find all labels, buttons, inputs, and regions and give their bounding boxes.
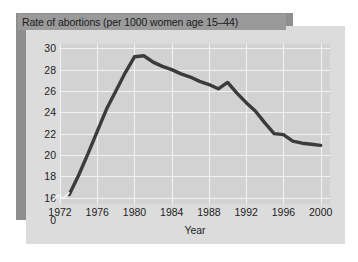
y-axis-tick-label: 18 bbox=[44, 170, 56, 182]
x-axis-tick-label: 1984 bbox=[160, 206, 183, 218]
y-axis-tick-label: 30 bbox=[44, 42, 56, 54]
x-axis-tick-label: 1980 bbox=[123, 206, 146, 218]
x-axis-label: Year bbox=[60, 224, 330, 236]
x-axis-tick-label: 2000 bbox=[309, 206, 332, 218]
series-line-abortion-rate bbox=[60, 44, 330, 204]
y-axis-tick-label: 20 bbox=[44, 149, 56, 161]
x-axis-tick-label: 1996 bbox=[272, 206, 295, 218]
x-axis-tick-label: 1972 bbox=[48, 206, 71, 218]
y-axis-tick-label: 26 bbox=[44, 85, 56, 97]
y-axis-ticks: 16182022242628300 bbox=[26, 26, 60, 218]
plot-area bbox=[60, 44, 330, 204]
chart-figure: Rate of abortions (per 1000 women age 15… bbox=[0, 0, 358, 262]
x-axis-tick-label: 1976 bbox=[86, 206, 109, 218]
axis-break-icon bbox=[52, 191, 70, 202]
x-axis-tick-label: 1988 bbox=[197, 206, 220, 218]
x-axis-tick-label: 1992 bbox=[235, 206, 258, 218]
y-axis-tick-label: 24 bbox=[44, 106, 56, 118]
y-axis-tick-label: 22 bbox=[44, 128, 56, 140]
y-axis-tick-label: 28 bbox=[44, 64, 56, 76]
x-axis-ticks: 19721976198019841988199219962000 bbox=[60, 206, 330, 222]
